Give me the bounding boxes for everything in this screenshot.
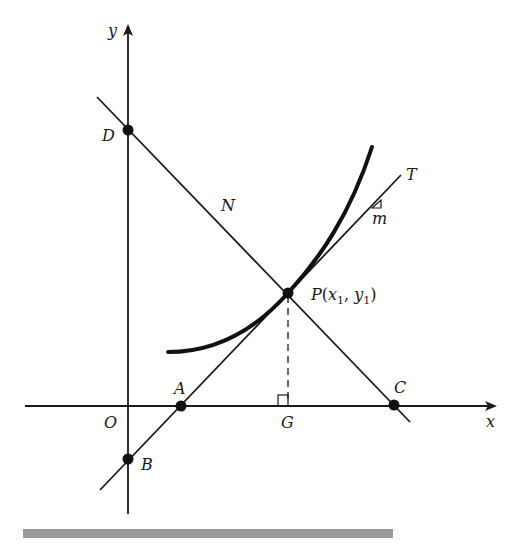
x-axis-label: x — [486, 412, 495, 431]
normal-line — [97, 97, 410, 422]
point-b — [123, 454, 134, 465]
tangent-line — [100, 175, 401, 490]
point-g-label: G — [281, 413, 294, 432]
point-a-label: A — [172, 379, 186, 398]
point-b-label: B — [140, 455, 153, 474]
y-axis-label: y — [107, 21, 118, 40]
slope-label: m — [372, 209, 387, 228]
tangent-line-label: T — [406, 165, 418, 184]
point-p — [283, 288, 294, 299]
point-p-label: P(x1, y1) — [310, 285, 377, 307]
point-a — [176, 401, 187, 412]
point-c — [389, 400, 400, 411]
point-c-label: C — [394, 378, 406, 397]
curve — [168, 147, 372, 352]
separator-bar — [23, 529, 393, 538]
origin-label: O — [104, 413, 117, 432]
right-angle-marker — [278, 395, 288, 406]
normal-line-label: N — [220, 196, 236, 215]
point-d — [123, 125, 134, 136]
point-d-label: D — [101, 126, 115, 145]
tangent-normal-diagram: y x O D N T m A C G B P(x1, y1) — [0, 0, 521, 544]
